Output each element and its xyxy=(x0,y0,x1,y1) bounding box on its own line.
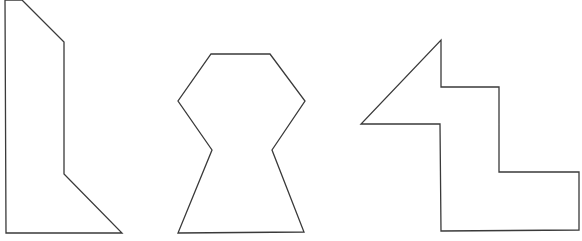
shape-right-stepped-arrow-polygon xyxy=(361,40,579,231)
shapes-canvas xyxy=(0,0,582,241)
shape-middle-hourglass-polygon xyxy=(178,54,305,233)
shape-left-tall-polygon xyxy=(5,0,122,233)
